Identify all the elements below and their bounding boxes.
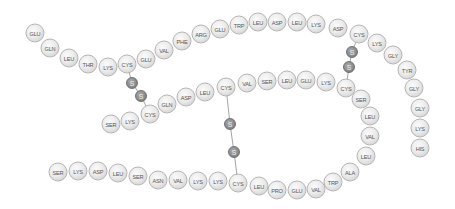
residue-asp: ASP [177,88,196,107]
sulfur-atom: S [346,46,358,58]
residue-glu: GLU [26,24,45,43]
residue-leu: LEU [196,83,215,102]
residue-lys: LYS [69,162,88,181]
residue-glu: GLU [297,71,316,90]
residue-glu: GLU [137,50,156,69]
residue-gly: GLY [384,46,403,65]
residue-cys: CYS [217,78,236,97]
residue-his: HIS [411,139,430,158]
disulfide-bond-line [226,87,238,183]
residue-leu: LEU [60,49,79,68]
residue-gln: GLN [158,95,177,114]
residue-ser: SER [49,163,68,182]
residue-val: VAL [238,74,257,93]
residue-gly: GLY [411,99,430,118]
residue-gln: GLN [41,39,60,58]
residue-asp: ASP [329,19,348,38]
residue-trp: TRP [324,173,343,192]
residue-leu: LEU [357,147,376,166]
sulfur-atom: S [135,90,147,102]
residue-leu: LEU [109,164,128,183]
residue-trp: TRP [230,16,249,35]
residue-lys: LYS [317,73,336,92]
sulfur-atom: S [126,77,138,89]
residue-lys: LYS [411,119,430,138]
residue-lys: LYS [307,15,326,34]
residue-leu: LEU [288,13,307,32]
residue-val: VAL [361,127,380,146]
residue-cys: CYS [118,55,137,74]
residue-leu: LEU [249,13,268,32]
residue-asp: ASP [268,13,287,32]
sulfur-atom: S [224,118,236,130]
residue-lys: LYS [121,112,140,131]
residue-gly: GLY [405,79,424,98]
residue-leu: LEU [250,177,269,196]
residue-asn: ASN [149,171,168,190]
residue-val: VAL [307,180,326,199]
sulfur-atom: S [228,146,240,158]
residue-cys: CYS [350,25,369,44]
residue-val: VAL [155,41,174,60]
residue-thr: THR [79,55,98,74]
residue-arg: ARG [192,25,211,44]
residue-ala: ALA [341,163,360,182]
residue-tyr: TYR [398,61,417,80]
residue-leu: LEU [278,71,297,90]
sulfur-atom: S [343,61,355,73]
residue-lys: LYS [99,58,118,77]
residue-leu: LEU [361,107,380,126]
residue-cys: CYS [229,174,248,193]
residue-asp: ASP [89,162,108,181]
residue-lys: LYS [209,172,228,191]
residue-glu: GLU [211,20,230,39]
residue-val: VAL [169,171,188,190]
residue-phe: PHE [173,32,192,51]
residue-pro: PRO [268,181,287,200]
peptide-diagram: GLUGLNLEUTHRLYSCYSGLUVALPHEARGGLUTRPLEUA… [0,0,455,209]
residue-ser: SER [102,115,121,134]
residue-lys: LYS [189,172,208,191]
residue-ser: SER [258,72,277,91]
residue-glu: GLU [288,181,307,200]
residue-cys: CYS [141,105,160,124]
residue-ser: SER [129,167,148,186]
